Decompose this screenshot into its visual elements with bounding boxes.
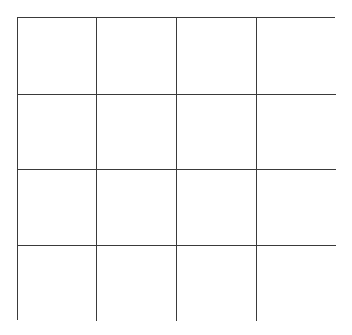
grid-cell-r1-c4 xyxy=(257,18,336,95)
grid-cell-r1-c3 xyxy=(177,18,257,95)
grid-cell-r4-c3 xyxy=(177,246,257,321)
grid-cell-r2-c3 xyxy=(177,95,257,170)
grid-cell-r3-c1 xyxy=(18,170,97,246)
grid-cell-r2-c1 xyxy=(18,95,97,170)
canvas xyxy=(0,0,352,335)
grid-cell-r2-c4 xyxy=(257,95,336,170)
grid-cell-r4-c4 xyxy=(257,246,336,321)
grid-cell-r2-c2 xyxy=(97,95,177,170)
grid-cell-r3-c2 xyxy=(97,170,177,246)
grid-cell-r1-c1 xyxy=(18,18,97,95)
grid-4x4 xyxy=(17,17,335,320)
grid-cell-r4-c1 xyxy=(18,246,97,321)
grid-cell-r4-c2 xyxy=(97,246,177,321)
grid-cell-r3-c3 xyxy=(177,170,257,246)
grid-cell-r1-c2 xyxy=(97,18,177,95)
grid-cell-r3-c4 xyxy=(257,170,336,246)
